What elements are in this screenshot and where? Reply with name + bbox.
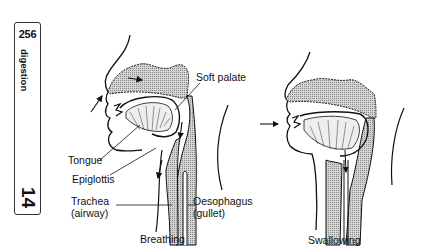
label-tongue: Tongue — [68, 154, 102, 166]
swallowing-diagram — [260, 52, 404, 245]
label-epiglottis: Epiglottis — [72, 173, 115, 185]
chapter-number: 14 — [17, 187, 39, 208]
label-trachea-sub: (airway) — [71, 207, 108, 219]
label-trachea: Trachea — [71, 195, 109, 207]
label-oesophagus: Oesophagus — [193, 195, 253, 207]
chapter-name: digestion — [19, 49, 30, 91]
label-soft-palate: Soft palate — [196, 71, 246, 83]
chapter-side-tab: 256 digestion 14 — [14, 22, 41, 215]
caption-swallowing: Swallowing — [308, 234, 361, 246]
caption-breathing: Breathing — [140, 233, 185, 245]
label-oesophagus-sub: (gullet) — [193, 207, 225, 219]
page-number: 256 — [15, 28, 40, 40]
